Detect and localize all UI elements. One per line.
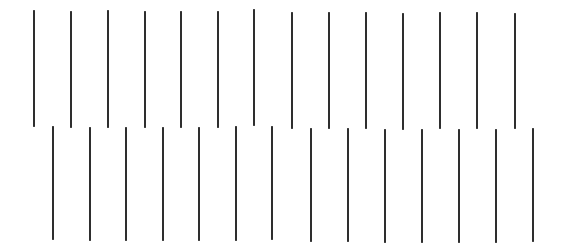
top-row-line-14: [514, 13, 517, 129]
top-row-line-6: [217, 11, 220, 128]
bottom-row-line-9: [347, 128, 350, 242]
bottom-row-line-4: [162, 127, 165, 241]
top-row-line-2: [70, 11, 73, 128]
bottom-row-line-12: [458, 129, 461, 243]
top-row-line-9: [328, 12, 331, 129]
top-row-line-13: [476, 12, 479, 129]
top-row-line-4: [144, 11, 147, 128]
top-row-line-8: [291, 12, 294, 129]
line-figure: [0, 0, 566, 247]
bottom-row-line-3: [125, 127, 128, 241]
bottom-row-line-11: [421, 129, 424, 243]
bottom-row-line-5: [198, 127, 201, 241]
bottom-row-line-6: [235, 126, 238, 241]
top-row-line-1: [33, 10, 36, 127]
top-row-line-10: [365, 12, 368, 129]
top-row-line-11: [402, 13, 405, 130]
bottom-row-line-14: [532, 128, 535, 242]
bottom-row-line-2: [89, 127, 92, 241]
bottom-row-line-8: [310, 128, 313, 242]
bottom-row-line-7: [271, 126, 274, 240]
top-row-line-3: [107, 10, 110, 128]
bottom-row-line-10: [384, 129, 387, 243]
bottom-row-line-1: [52, 126, 55, 240]
top-row-line-7: [253, 9, 256, 126]
top-row-line-5: [180, 11, 183, 128]
bottom-row-line-13: [495, 129, 498, 243]
top-row-line-12: [439, 12, 442, 129]
